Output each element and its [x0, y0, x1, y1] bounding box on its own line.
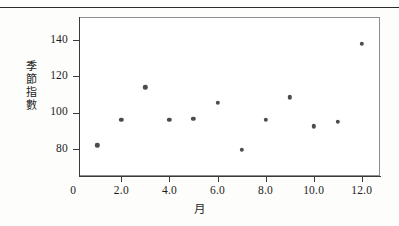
x-tick-label: 12.0 — [351, 184, 372, 196]
y-axis-title-char: 節 — [24, 73, 39, 86]
y-axis-title: 季節指數 — [24, 60, 39, 112]
y-tick-mark — [73, 40, 79, 41]
x-tick-label: 8.0 — [258, 184, 273, 196]
x-tick-mark — [314, 176, 315, 182]
x-tick-mark — [121, 176, 122, 182]
x-axis-title: 月 — [0, 200, 399, 216]
y-axis-title-char: 季 — [24, 60, 39, 73]
x-tick-label: 6.0 — [210, 184, 225, 196]
figure-scatter-seasonal-index: 80100120140 02.04.06.08.010.012.0 季節指數 月 — [0, 0, 399, 226]
x-tick-label: 10.0 — [303, 184, 324, 196]
y-tick-label: 100 — [50, 105, 68, 117]
page-top-rule — [0, 7, 399, 8]
y-tick-mark — [73, 149, 79, 150]
y-tick-mark — [73, 76, 79, 77]
x-tick-label: 0 — [70, 184, 76, 196]
y-axis-title-char: 數 — [24, 99, 39, 112]
y-axis-spine — [79, 17, 80, 177]
y-tick-label: 80 — [56, 142, 68, 154]
x-tick-mark — [362, 176, 363, 182]
x-tick-label: 4.0 — [162, 184, 177, 196]
x-axis-spine — [79, 176, 381, 177]
x-tick-label: 2.0 — [114, 184, 129, 196]
y-axis-title-char: 指 — [24, 86, 39, 99]
y-tick-label: 120 — [50, 69, 68, 81]
plot-frame — [79, 17, 380, 176]
x-tick-mark — [266, 176, 267, 182]
y-tick-label: 140 — [50, 33, 68, 45]
x-tick-mark — [218, 176, 219, 182]
x-tick-mark — [169, 176, 170, 182]
y-tick-mark — [73, 113, 79, 114]
